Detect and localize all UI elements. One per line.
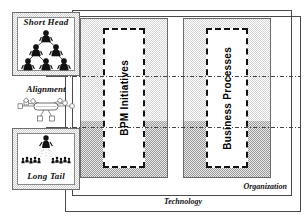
- alignment-line-lower: [46, 127, 301, 128]
- diagram-canvas: Technology Organization BPM Initiatives …: [0, 0, 304, 224]
- org-pyramid-icon: [18, 29, 74, 71]
- box-short-head-label: Short Head: [12, 17, 80, 27]
- connector-short-head: [46, 76, 66, 77]
- core-box-business-processes-label: Business Processes: [222, 47, 233, 150]
- core-box-business-processes: Business Processes: [206, 28, 248, 168]
- box-long-tail-label: Long Tail: [12, 171, 80, 181]
- frame-technology-label: Technology: [65, 197, 301, 206]
- core-box-bpm-initiatives: BPM Initiatives: [103, 28, 145, 168]
- box-alignment-label: Alignment: [12, 84, 80, 94]
- network-hub-icon: [13, 97, 79, 123]
- connector-long-tail: [46, 127, 66, 128]
- frame-organization-label: Organization: [72, 182, 293, 191]
- core-box-bpm-initiatives-label: BPM Initiatives: [119, 60, 130, 136]
- crowd-icon: [18, 134, 74, 168]
- alignment-line-upper: [46, 76, 301, 77]
